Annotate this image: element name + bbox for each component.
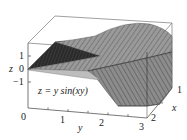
y-tick-0: 0 <box>21 112 26 122</box>
y-axis-line <box>28 108 147 118</box>
y-tick-2: 2 <box>99 118 104 128</box>
z-tick-minus1: −1 <box>13 77 24 87</box>
equation-label: z = y sin(xy) <box>38 86 88 96</box>
x-tick-1: 1 <box>177 85 182 95</box>
z-tick-1: 1 <box>19 51 24 61</box>
z-tick-0: 0 <box>19 64 24 74</box>
y-tick-3: 3 <box>139 122 144 132</box>
x-tick-2: 2 <box>151 113 156 123</box>
equation-text: z = y sin(xy) <box>38 85 88 96</box>
y-tick-1: 1 <box>60 115 65 125</box>
surface-plot <box>0 0 187 140</box>
x-axis-label: x <box>172 103 176 113</box>
z-axis-label: z <box>9 64 13 74</box>
y-axis-label: y <box>78 123 82 133</box>
